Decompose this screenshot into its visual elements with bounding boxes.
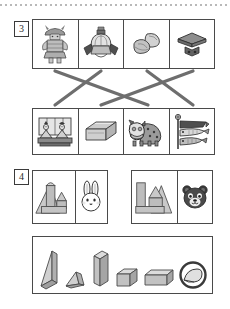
- rabbit-face-icon: [77, 180, 105, 214]
- worksheet-page: 3 musha-ningyo: [0, 0, 230, 309]
- connector-mochi-to-koinobori: [147, 71, 193, 105]
- kabuto-helmet-icon: [81, 24, 121, 64]
- wooden-stand-icon: [173, 28, 211, 60]
- carp-streamer-icon: [172, 113, 212, 151]
- q4-shape-option-3[interactable]: tall-bar: [90, 248, 112, 290]
- cube-icon: [114, 266, 140, 290]
- q4-pair-a-face-cell[interactable]: usagi: [76, 171, 107, 223]
- q4-pair-b-face-cell[interactable]: kuma: [178, 171, 212, 223]
- q3-top-cell-kashiwa-mochi[interactable]: kashiwa-mochi: [124, 20, 170, 68]
- question-number-4: 4: [14, 169, 29, 185]
- bear-face-icon: [180, 183, 210, 211]
- q3-top-cell-masu-stand[interactable]: sanbo-stand: [170, 20, 215, 68]
- right-triangular-prism-icon: [37, 246, 62, 290]
- q4-pair-b: blocks-with-tall-bar-and-triangles kuma: [131, 170, 213, 224]
- rice-cake-icon: [128, 27, 164, 61]
- q4-shape-options-row: triangular-prism-tall small-wedge tall-b…: [32, 236, 213, 294]
- connector-kabuto-to-hina: [55, 71, 101, 105]
- rectangular-prism-icon: [142, 266, 176, 290]
- open-box-icon: [82, 117, 120, 147]
- page-top-dotted-rule: [0, 4, 230, 6]
- q3-bottom-cell-koinobori[interactable]: koinobori: [170, 109, 215, 154]
- block-structure-a-icon: [33, 174, 75, 220]
- half-cylinder-icon: [178, 260, 208, 290]
- q4-shape-option-6[interactable]: half-cylinder: [178, 260, 208, 290]
- connector-stand-to-box: [101, 71, 193, 105]
- q4-shape-option-5[interactable]: long-box: [142, 266, 176, 290]
- q3-bottom-row: hina-ningyo: [32, 108, 215, 155]
- q4-pair-a: blocks-with-cylinder-and-triangle usagi: [32, 170, 108, 224]
- tall-rectangular-prism-icon: [90, 248, 112, 290]
- q3-top-cell-warrior-doll[interactable]: musha-ningyo: [33, 20, 79, 68]
- q3-top-row: musha-ningyo: [32, 19, 215, 69]
- q4-shape-option-4[interactable]: cube: [114, 266, 140, 290]
- connector-warrior-to-shishimai: [55, 71, 148, 105]
- lion-dance-icon: [126, 115, 166, 149]
- question-number-3: 3: [14, 21, 29, 37]
- q3-bottom-cell-hina-dolls[interactable]: hina-ningyo: [33, 109, 79, 154]
- q4-shape-option-2[interactable]: small-wedge: [64, 268, 88, 290]
- small-wedge-icon: [64, 268, 88, 290]
- block-structure-b-icon: [132, 174, 177, 220]
- q3-bottom-cell-shishimai[interactable]: shishimai: [124, 109, 170, 154]
- q4-shape-option-1[interactable]: triangular-prism-tall: [37, 246, 62, 290]
- q4-pair-b-build-cell[interactable]: blocks-with-tall-bar-and-triangles: [132, 171, 178, 223]
- samurai-armor-doll-icon: [35, 22, 75, 66]
- q3-bottom-cell-box[interactable]: hako: [79, 109, 125, 154]
- q3-top-cell-kabuto-helmet[interactable]: kabuto: [79, 20, 125, 68]
- hina-doll-pair-icon: [35, 114, 75, 150]
- q4-pair-a-build-cell[interactable]: blocks-with-cylinder-and-triangle: [33, 171, 76, 223]
